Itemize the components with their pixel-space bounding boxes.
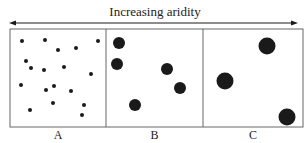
dot bbox=[259, 38, 276, 55]
dot bbox=[43, 38, 47, 42]
dot bbox=[52, 84, 56, 88]
panel-c: C bbox=[203, 29, 296, 142]
dot bbox=[80, 113, 84, 117]
dot bbox=[51, 101, 55, 105]
dot bbox=[20, 39, 24, 43]
dot bbox=[56, 48, 60, 52]
aridity-arrow bbox=[9, 21, 298, 26]
dot bbox=[74, 46, 78, 50]
dot bbox=[69, 89, 73, 93]
dot bbox=[44, 88, 48, 92]
dot bbox=[29, 66, 33, 70]
dot bbox=[42, 68, 46, 72]
aridity-diagram: Increasing aridity ABC bbox=[0, 0, 305, 143]
dot bbox=[62, 65, 66, 69]
dot bbox=[217, 73, 234, 90]
panel-label: B bbox=[150, 128, 158, 142]
diagram-title: Increasing aridity bbox=[109, 4, 201, 19]
dot bbox=[279, 109, 296, 126]
dot bbox=[82, 103, 86, 107]
dot bbox=[24, 59, 28, 63]
dot bbox=[111, 58, 123, 70]
dot bbox=[174, 82, 186, 94]
panel-a: A bbox=[19, 38, 100, 142]
dot bbox=[161, 63, 173, 75]
panel-label: A bbox=[54, 128, 63, 142]
dot bbox=[28, 108, 32, 112]
dot bbox=[19, 83, 23, 87]
panel-label: C bbox=[249, 128, 257, 142]
panel-b: B bbox=[106, 29, 186, 142]
dot bbox=[113, 37, 125, 49]
dot bbox=[129, 99, 141, 111]
arrow-left-head-icon bbox=[9, 21, 16, 26]
dot bbox=[89, 72, 93, 76]
dot bbox=[96, 39, 100, 43]
arrow-right-head-icon bbox=[291, 21, 298, 26]
